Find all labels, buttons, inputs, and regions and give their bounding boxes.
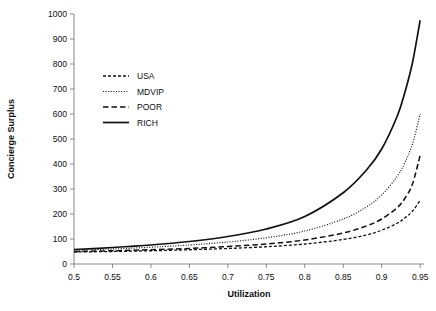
y-tick-label: 400	[53, 159, 67, 169]
y-tick-label: 600	[53, 109, 67, 119]
legend-label-rich: RICH	[137, 118, 158, 128]
legend-label-mdvip: MDVIP	[137, 87, 164, 97]
x-axis-title: Utilization	[228, 289, 271, 299]
x-tick-label: 0.55	[104, 272, 121, 282]
x-tick-label: 0.95	[412, 272, 429, 282]
x-tick-label: 0.7	[222, 272, 234, 282]
series-line-rich	[74, 20, 420, 249]
series-line-mdvip	[74, 114, 420, 250]
legend-label-usa: USA	[137, 71, 155, 81]
y-tick-label: 0	[62, 259, 67, 269]
x-tick-label: 0.8	[299, 272, 311, 282]
y-tick-label: 800	[53, 59, 67, 69]
x-tick-label: 0.65	[181, 272, 198, 282]
y-axis-title: Concierge Surplus	[6, 99, 16, 179]
y-tick-label: 300	[53, 184, 67, 194]
y-tick-label: 500	[53, 134, 67, 144]
y-axis-ticks: 01002003004005006007008009001000	[48, 9, 74, 269]
data-series-group	[74, 20, 420, 252]
y-tick-label: 100	[53, 234, 67, 244]
legend: USAMDVIPPOORRICH	[103, 71, 164, 128]
x-axis-ticks: 0.50.550.60.650.70.750.80.850.90.95	[68, 264, 429, 282]
y-tick-label: 900	[53, 34, 67, 44]
y-tick-label: 700	[53, 84, 67, 94]
axes-group	[74, 14, 424, 264]
x-tick-label: 0.6	[145, 272, 157, 282]
chart-container: 01002003004005006007008009001000 0.50.55…	[0, 0, 436, 311]
line-chart: 01002003004005006007008009001000 0.50.55…	[0, 0, 436, 311]
series-line-usa	[74, 200, 420, 252]
legend-label-poor: POOR	[137, 102, 162, 112]
y-tick-label: 200	[53, 209, 67, 219]
x-tick-label: 0.5	[68, 272, 80, 282]
x-tick-label: 0.75	[258, 272, 275, 282]
series-line-poor	[74, 155, 420, 251]
x-tick-label: 0.85	[335, 272, 352, 282]
x-tick-label: 0.9	[376, 272, 388, 282]
y-tick-label: 1000	[48, 9, 67, 19]
